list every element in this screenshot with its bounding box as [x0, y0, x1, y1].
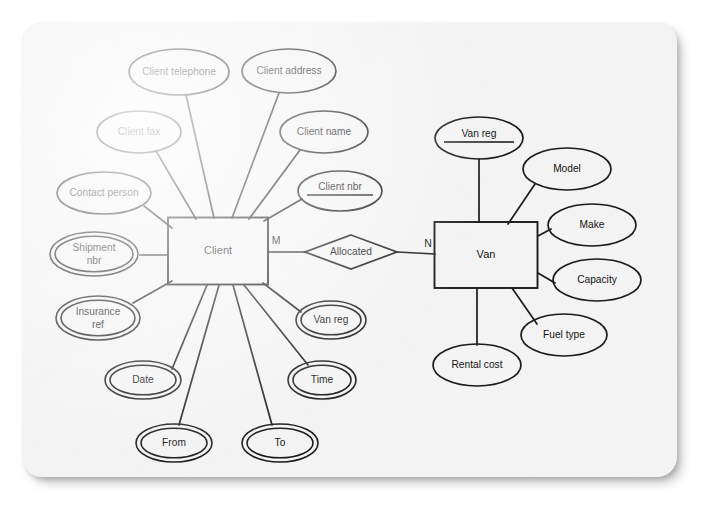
attribute-client-fax[interactable]: Client fax — [97, 111, 181, 153]
attribute-label: Client nbr — [318, 181, 362, 192]
attribute-to[interactable]: To — [242, 424, 318, 462]
connector-van-reg-client — [263, 283, 301, 312]
connector-client-address — [232, 93, 279, 218]
connector-client-fax — [156, 151, 196, 219]
entity-van[interactable]: Van — [435, 222, 538, 288]
attribute-from[interactable]: From — [136, 424, 212, 462]
er-diagram-svg: Client telephoneClient addressClient fax… — [22, 22, 677, 477]
attribute-label: Fuel type — [543, 329, 585, 340]
attribute-label: Van reg — [314, 314, 349, 325]
attribute-label: To — [275, 437, 286, 448]
entity-client[interactable]: Client — [168, 218, 268, 285]
attribute-rental-cost[interactable]: Rental cost — [433, 344, 521, 386]
connector-date — [172, 285, 207, 369]
attribute-client-address[interactable]: Client address — [242, 49, 336, 93]
attribute-label: Client telephone — [142, 66, 216, 77]
attribute-label: Model — [553, 163, 581, 174]
relationships-layer: Allocated — [305, 235, 397, 269]
attribute-date[interactable]: Date — [105, 361, 181, 399]
connector-client-telephone — [186, 95, 214, 218]
attribute-time[interactable]: Time — [288, 361, 356, 399]
attribute-client-nbr[interactable]: Client nbr — [298, 171, 382, 211]
attribute-label: Date — [132, 374, 154, 385]
attribute-label: Shipmentnbr — [72, 242, 115, 266]
attribute-label: Client fax — [118, 126, 160, 137]
cardinality-n-van-side: N — [424, 237, 432, 249]
attribute-label: Time — [311, 374, 334, 385]
attribute-label: From — [162, 437, 186, 448]
relationship-allocated[interactable]: Allocated — [305, 235, 397, 269]
attribute-label: Capacity — [577, 274, 618, 285]
attribute-model[interactable]: Model — [523, 148, 611, 190]
connector-time — [244, 285, 308, 365]
attribute-client-name[interactable]: Client name — [280, 111, 368, 153]
connector-model — [508, 184, 535, 224]
attribute-fuel-type[interactable]: Fuel type — [521, 314, 607, 356]
attribute-shipment-nbr[interactable]: Shipmentnbr — [50, 232, 138, 276]
attribute-insurance-ref[interactable]: Insuranceref — [56, 296, 140, 340]
attribute-van-reg-key[interactable]: Van reg — [435, 117, 523, 159]
attribute-contact-person[interactable]: Contact person — [57, 172, 151, 214]
connector-insurance-ref — [133, 281, 172, 303]
attribute-label: Make — [580, 219, 605, 230]
attribute-label: Insuranceref — [76, 306, 121, 330]
attribute-label: Van reg — [462, 128, 497, 139]
attribute-client-telephone[interactable]: Client telephone — [129, 49, 229, 95]
connector-client-name — [249, 150, 300, 219]
connector-to — [233, 285, 272, 425]
diagram-page: Client telephoneClient addressClient fax… — [22, 22, 677, 477]
attribute-capacity[interactable]: Capacity — [553, 259, 641, 301]
connector-van — [397, 252, 435, 254]
attribute-make[interactable]: Make — [548, 204, 636, 246]
attribute-label: Contact person — [69, 187, 138, 198]
attribute-label: Client name — [297, 126, 352, 137]
attribute-van-reg-client[interactable]: Van reg — [296, 301, 366, 339]
attribute-label: Client address — [256, 65, 321, 76]
cardinality-m-client-side: M — [272, 234, 281, 246]
relationship-label: Allocated — [330, 246, 372, 257]
entity-label: Van — [477, 248, 496, 260]
screenshot-canvas: Client telephoneClient addressClient fax… — [0, 0, 704, 516]
entity-label: Client — [204, 244, 232, 256]
attribute-label: Rental cost — [452, 359, 503, 370]
connector-fuel-type — [512, 288, 537, 324]
connector-client-nbr — [264, 199, 302, 221]
